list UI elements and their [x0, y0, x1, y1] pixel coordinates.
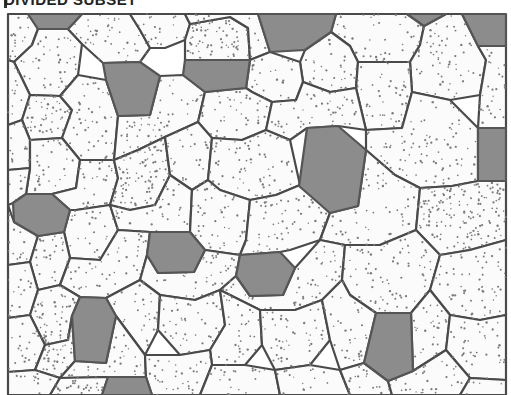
stipple-dot	[87, 39, 89, 41]
stipple-dot	[54, 305, 56, 307]
stipple-dot	[14, 68, 15, 69]
stipple-dot	[169, 321, 171, 323]
stipple-dot	[272, 359, 274, 361]
stipple-dot	[464, 290, 466, 292]
stipple-dot	[65, 85, 67, 87]
stipple-dot	[259, 178, 261, 180]
stipple-dot	[430, 52, 432, 54]
stipple-dot	[105, 142, 107, 144]
stipple-dot	[168, 203, 170, 205]
stipple-dot	[445, 225, 447, 227]
stipple-dot	[469, 246, 471, 248]
stipple-dot	[90, 78, 91, 79]
stipple-dot	[340, 90, 342, 92]
stipple-dot	[265, 212, 267, 214]
stipple-dot	[174, 161, 176, 163]
stipple-dot	[46, 130, 48, 132]
stipple-dot	[407, 223, 409, 225]
stipple-dot	[149, 171, 150, 172]
stipple-dot	[115, 172, 117, 174]
stipple-dot	[210, 336, 212, 338]
stipple-dot	[355, 52, 357, 54]
stipple-dot	[10, 310, 12, 312]
stipple-dot	[295, 198, 297, 200]
stipple-dot	[429, 261, 431, 263]
stipple-dot	[118, 260, 120, 262]
stipple-dot	[272, 318, 274, 320]
stipple-dot	[154, 161, 156, 163]
stipple-dot	[158, 149, 160, 151]
stipple-dot	[227, 56, 229, 58]
stipple-dot	[77, 238, 79, 240]
stipple-dot	[313, 77, 315, 79]
stipple-dot	[401, 103, 403, 105]
stipple-dot	[8, 214, 10, 216]
stipple-dot	[234, 141, 235, 142]
stipple-dot	[496, 184, 498, 186]
stipple-dot	[460, 286, 462, 288]
stipple-dot	[274, 234, 276, 236]
stipple-dot	[343, 259, 345, 261]
stipple-dot	[9, 150, 11, 152]
stipple-dot	[146, 13, 148, 15]
stipple-dot	[145, 52, 147, 54]
stipple-dot	[346, 98, 348, 100]
stipple-dot	[258, 244, 260, 246]
stipple-dot	[258, 116, 260, 118]
stipple-dot	[495, 295, 496, 296]
stipple-dot	[257, 103, 259, 105]
stipple-dot	[162, 215, 164, 217]
stipple-dot	[353, 77, 355, 79]
stipple-dot	[13, 33, 15, 35]
stipple-dot	[105, 179, 107, 181]
stipple-dot	[257, 39, 259, 41]
stipple-dot	[284, 210, 286, 212]
stipple-dot	[215, 256, 217, 258]
stipple-dot	[234, 99, 235, 100]
stipple-dot	[264, 201, 266, 203]
stipple-dot	[44, 323, 46, 325]
stipple-dot	[423, 255, 425, 257]
stipple-dot	[418, 41, 420, 43]
stipple-dot	[242, 353, 244, 355]
stipple-dot	[69, 118, 71, 120]
stipple-dot	[144, 34, 146, 36]
stipple-dot	[331, 84, 333, 86]
stipple-dot	[384, 164, 386, 166]
stipple-dot	[241, 314, 243, 316]
stipple-dot	[15, 80, 17, 82]
stipple-dot	[49, 84, 51, 86]
stipple-dot	[401, 142, 402, 143]
stipple-dot	[74, 46, 75, 47]
stipple-dot	[371, 286, 373, 288]
stipple-dot	[436, 222, 438, 224]
stipple-dot	[419, 202, 421, 204]
stipple-dot	[45, 331, 47, 333]
stipple-dot	[262, 316, 264, 318]
stipple-dot	[114, 301, 116, 303]
stipple-dot	[402, 169, 404, 171]
stipple-dot	[410, 68, 412, 70]
stipple-dot	[438, 57, 440, 59]
stipple-dot	[118, 206, 120, 208]
stipple-dot	[208, 15, 210, 17]
stipple-dot	[107, 36, 108, 37]
stipple-dot	[431, 234, 433, 236]
stipple-dot	[263, 97, 265, 99]
stipple-dot	[334, 91, 336, 93]
stipple-dot	[41, 301, 42, 302]
stipple-dot	[410, 186, 411, 187]
stipple-dot	[24, 37, 26, 39]
stipple-dot	[503, 221, 505, 223]
stipple-dot	[175, 371, 177, 373]
stipple-dot	[237, 187, 238, 188]
stipple-dot	[216, 305, 218, 307]
stipple-dot	[388, 85, 390, 87]
stipple-dot	[92, 121, 94, 123]
stipple-dot	[467, 204, 469, 206]
stipple-dot	[247, 240, 248, 241]
stipple-dot	[450, 331, 452, 333]
stipple-dot	[494, 291, 496, 293]
stipple-dot	[361, 89, 363, 91]
stipple-dot	[297, 117, 299, 119]
